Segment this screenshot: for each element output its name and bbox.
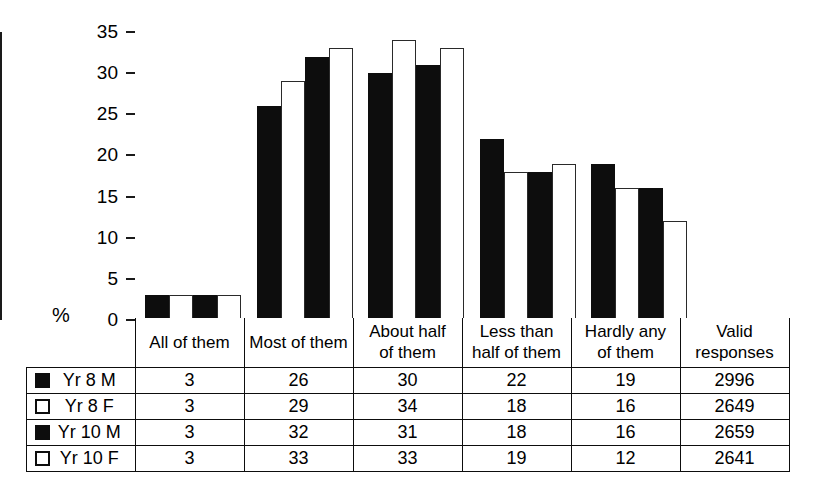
table-cell: 16 <box>571 394 680 420</box>
bar-yr-10-f-0 <box>217 295 241 320</box>
legend-cell-yr-10-f: Yr 10 F <box>27 446 136 472</box>
header-line-2: of them <box>572 342 680 363</box>
y-tick-label-35: 35 <box>78 22 118 41</box>
table-cell: 2641 <box>680 446 789 472</box>
y-tick-label-15: 15 <box>78 187 118 206</box>
table-cell: 3 <box>135 368 244 394</box>
legend-series-label: Yr 8 F <box>50 396 135 417</box>
table-cell: 34 <box>353 394 462 420</box>
header-line-1: Most of them <box>245 332 353 353</box>
bar-yr-8-m-2 <box>368 73 392 320</box>
y-axis-line <box>0 32 2 320</box>
legend-series-label: Yr 10 M <box>50 422 135 443</box>
bar-yr-8-m-1 <box>257 106 281 320</box>
bar-yr-10-f-1 <box>329 48 353 320</box>
legend-swatch-icon <box>35 373 50 388</box>
bar-yr-8-f-1 <box>281 81 305 320</box>
table-header-row: All of themMost of themAbout halfof them… <box>27 318 790 368</box>
bar-yr-10-f-3 <box>552 164 576 320</box>
table-cell: 30 <box>353 368 462 394</box>
bar-yr-8-m-3 <box>480 139 504 320</box>
table-row: Yr 8 F3293418162649 <box>27 394 790 420</box>
legend-swatch-icon <box>35 399 50 414</box>
table-cell: 3 <box>135 420 244 446</box>
header-line-2: responses <box>681 342 789 363</box>
header-line-1: Less than <box>463 321 571 342</box>
table-cell: 16 <box>571 420 680 446</box>
data-table: All of themMost of themAbout halfof them… <box>26 318 790 472</box>
bar-yr-10-m-2 <box>416 65 440 320</box>
table-cell: 19 <box>462 446 571 472</box>
legend-cell-yr-8-f: Yr 8 F <box>27 394 136 420</box>
table-cell: 18 <box>462 394 571 420</box>
bar-yr-10-m-3 <box>528 172 552 320</box>
table-cell: 18 <box>462 420 571 446</box>
table-cell: 22 <box>462 368 571 394</box>
bar-yr-10-m-4 <box>639 188 663 320</box>
table-cell: 2649 <box>680 394 789 420</box>
legend-series-label: Yr 8 M <box>50 370 135 391</box>
table-cell: 2996 <box>680 368 789 394</box>
header-line-1: Hardly any <box>572 321 680 342</box>
header-line-2: of them <box>354 342 462 363</box>
table-row: Yr 10 M3323118162659 <box>27 420 790 446</box>
table-cell: 19 <box>571 368 680 394</box>
legend-swatch-icon <box>35 425 50 440</box>
bar-yr-8-m-4 <box>591 164 615 320</box>
bar-yr-10-f-4 <box>663 221 687 320</box>
table-cell: 3 <box>135 446 244 472</box>
bar-yr-8-f-4 <box>615 188 639 320</box>
table-header-3: About halfof them <box>353 318 462 368</box>
header-line-1: Valid <box>681 321 789 342</box>
table-header-legend-corner <box>27 318 136 368</box>
bar-yr-10-m-1 <box>305 57 329 320</box>
y-tick-label-5: 5 <box>78 269 118 288</box>
bar-yr-10-f-2 <box>440 48 464 320</box>
y-tick-label-20: 20 <box>78 145 118 164</box>
legend-cell-yr-8-m: Yr 8 M <box>27 368 136 394</box>
header-line-1: About half <box>354 321 462 342</box>
table-row: Yr 8 M3263022192996 <box>27 368 790 394</box>
table-cell: 33 <box>353 446 462 472</box>
header-line-2: half of them <box>463 342 571 363</box>
legend-series-label: Yr 10 F <box>50 448 135 469</box>
table-header-1: All of them <box>135 318 244 368</box>
legend-cell-yr-10-m: Yr 10 M <box>27 420 136 446</box>
table-cell: 29 <box>244 394 353 420</box>
table-header-4: Less thanhalf of them <box>462 318 571 368</box>
y-tick-label-25: 25 <box>78 104 118 123</box>
table-cell: 26 <box>244 368 353 394</box>
table-cell: 33 <box>244 446 353 472</box>
table-row: Yr 10 F3333319122641 <box>27 446 790 472</box>
bar-yr-10-m-0 <box>193 295 217 320</box>
table-cell: 12 <box>571 446 680 472</box>
bar-yr-8-f-0 <box>169 295 193 320</box>
table-header-6: Validresponses <box>680 318 789 368</box>
table-header-5: Hardly anyof them <box>571 318 680 368</box>
y-tick-label-30: 30 <box>78 63 118 82</box>
header-line-1: All of them <box>136 332 244 353</box>
plot-area <box>134 32 786 319</box>
bar-yr-8-f-3 <box>504 172 528 320</box>
table-cell: 31 <box>353 420 462 446</box>
table-cell: 32 <box>244 420 353 446</box>
y-tick-label-10: 10 <box>78 228 118 247</box>
legend-swatch-icon <box>35 451 50 466</box>
chart-figure: 05101520253035 % All of themMost of them… <box>0 0 826 483</box>
table-header-2: Most of them <box>244 318 353 368</box>
table-cell: 3 <box>135 394 244 420</box>
bar-yr-8-m-0 <box>145 295 169 320</box>
bar-yr-8-f-2 <box>392 40 416 320</box>
table-cell: 2659 <box>680 420 789 446</box>
